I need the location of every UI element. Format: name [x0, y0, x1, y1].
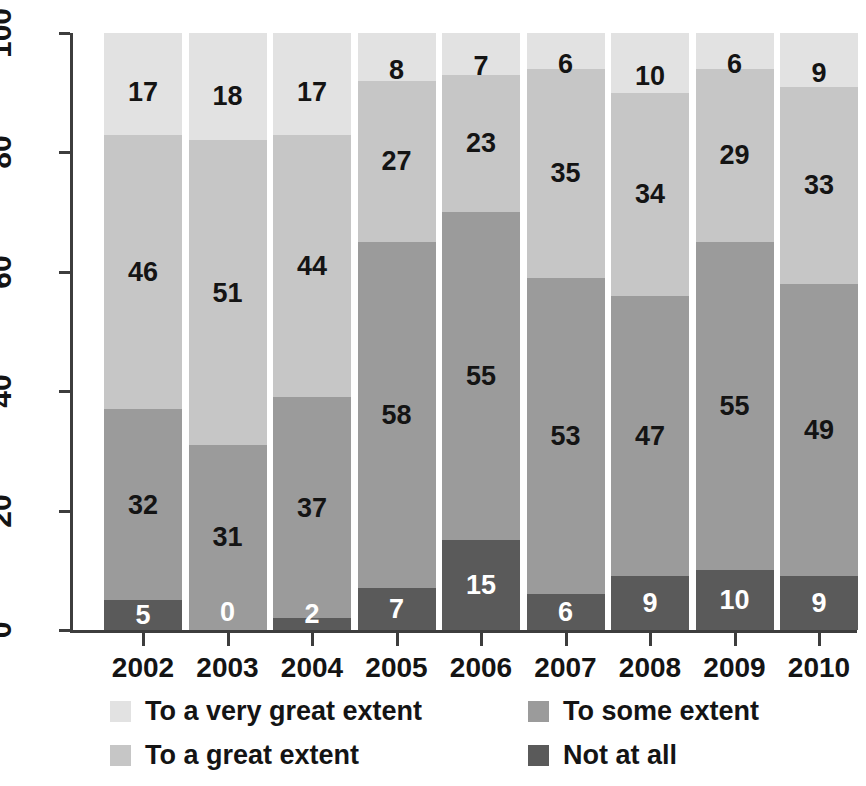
y-axis-tick [59, 151, 70, 154]
x-axis-tick [480, 633, 483, 646]
y-axis-tick-label: 40 [0, 346, 18, 436]
bar-group[interactable]: 5324617 [104, 33, 182, 630]
legend-item[interactable]: To a very great extent [110, 698, 422, 725]
y-axis-tick [59, 32, 70, 35]
bar-segment-value: 0 [189, 599, 267, 626]
y-axis-tick-label: 100 [0, 0, 18, 78]
x-axis-tick-label: 2010 [769, 652, 866, 684]
bar-segment-value: 47 [611, 423, 689, 450]
bar-segment-value: 2 [273, 601, 351, 628]
bar-segment-value: 9 [780, 590, 858, 617]
bar-segment-value: 44 [273, 253, 351, 280]
bar-segment-value: 31 [189, 524, 267, 551]
bar-segment-value: 55 [442, 363, 520, 390]
bar-segment-value: 17 [104, 79, 182, 106]
bar-group[interactable]: 1555237 [442, 33, 520, 630]
x-axis-line [70, 630, 857, 633]
y-axis-tick-label: 80 [0, 107, 18, 197]
bar-segment-value: 53 [527, 423, 605, 450]
bar-segment-value: 33 [780, 172, 858, 199]
bar-segment-value: 7 [442, 53, 520, 80]
bar-segment-value: 5 [104, 602, 182, 629]
x-axis-tick [734, 633, 737, 646]
bar-segment-value: 8 [358, 57, 436, 84]
x-axis-tick [311, 633, 314, 646]
legend-label: Not at all [563, 742, 677, 769]
legend-swatch-icon [528, 701, 549, 722]
legend-swatch-icon [110, 745, 131, 766]
y-axis-tick [59, 629, 70, 632]
legend-item[interactable]: To a great extent [110, 742, 359, 769]
bar-segment-value: 46 [104, 259, 182, 286]
bar-segment-value: 7 [358, 596, 436, 623]
bar-group[interactable]: 0315118 [189, 33, 267, 630]
bar-group[interactable]: 653356 [527, 33, 605, 630]
bar-group[interactable]: 758278 [358, 33, 436, 630]
bar-group[interactable]: 2374417 [273, 33, 351, 630]
legend-label: To some extent [563, 698, 759, 725]
bar-group[interactable]: 9473410 [611, 33, 689, 630]
x-axis-tick [227, 633, 230, 646]
bar-segment-value: 15 [442, 572, 520, 599]
bar-segment-value: 37 [273, 495, 351, 522]
legend-item[interactable]: To some extent [528, 698, 759, 725]
x-axis-tick [142, 633, 145, 646]
bar-segment-value: 10 [696, 587, 774, 614]
bar-segment-value: 9 [611, 590, 689, 617]
stacked-bar-chart: 020406080100 532461703151182374417758278… [0, 0, 866, 786]
bar-segment-value: 17 [273, 79, 351, 106]
y-axis-tick-label: 0 [0, 585, 18, 675]
x-axis-tick [565, 633, 568, 646]
bar-segment-value: 10 [611, 63, 689, 90]
y-axis-line [70, 33, 73, 630]
x-axis-tick [396, 633, 399, 646]
bar-segment-value: 32 [104, 492, 182, 519]
bar-segment-value: 34 [611, 181, 689, 208]
bar-segment-value: 55 [696, 393, 774, 420]
y-axis-tick [59, 390, 70, 393]
bar-segment-value: 27 [358, 148, 436, 175]
y-axis-tick-label: 20 [0, 466, 18, 556]
x-axis-tick [818, 633, 821, 646]
bar-segment-value: 6 [527, 599, 605, 626]
legend-label: To a very great extent [145, 698, 422, 725]
bar-segment-value: 51 [189, 280, 267, 307]
bar-segment-value: 6 [527, 51, 605, 78]
bar-segment-value: 18 [189, 83, 267, 110]
bar-group[interactable]: 1055296 [696, 33, 774, 630]
bar-segment-value: 6 [696, 51, 774, 78]
y-axis-tick-label: 60 [0, 227, 18, 317]
legend-swatch-icon [110, 701, 131, 722]
bar-segment-value: 29 [696, 142, 774, 169]
legend-item[interactable]: Not at all [528, 742, 677, 769]
bar-segment-value: 58 [358, 402, 436, 429]
y-axis-tick [59, 510, 70, 513]
legend-swatch-icon [528, 745, 549, 766]
bar-segment-value: 23 [442, 130, 520, 157]
bar-segment-value: 9 [780, 60, 858, 87]
bar-group[interactable]: 949339 [780, 33, 858, 630]
x-axis-tick [649, 633, 652, 646]
bar-segment-value: 35 [527, 160, 605, 187]
y-axis-tick [59, 271, 70, 274]
chart-legend: To a very great extentTo a great extentT… [0, 690, 866, 786]
bar-segment-value: 49 [780, 417, 858, 444]
legend-label: To a great extent [145, 742, 359, 769]
